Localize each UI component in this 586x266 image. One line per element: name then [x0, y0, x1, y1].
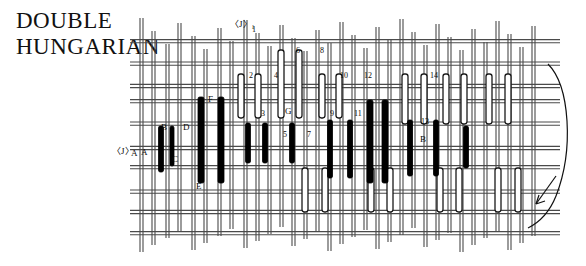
diagram-canvas: DOUBLE HUNGARIAN BDCFEGB1246835710129111… — [0, 0, 586, 266]
label-letter-f-3: F — [208, 95, 213, 103]
weave-bar-open — [495, 168, 501, 212]
label-letter-b-0: B — [161, 123, 167, 131]
label-number-5: 5 — [283, 131, 287, 139]
weave-bar-filled — [464, 126, 469, 168]
label-letter-g-5: G — [285, 107, 292, 115]
marker-j-top: 〈J〉₁ — [230, 20, 255, 28]
weave-bar-open — [238, 74, 244, 118]
label-letter-c-2: C — [172, 155, 178, 163]
weave-bar-filled — [382, 100, 388, 183]
label-letter-b-6: B — [420, 135, 426, 143]
weave-bar-filled — [198, 97, 204, 183]
weave-bar-filled — [434, 120, 439, 176]
label-number-10: 10 — [340, 72, 348, 80]
weave-bar-open — [456, 168, 462, 212]
label-number-7: 7 — [307, 131, 311, 139]
label-letter-a-left-1: A — [131, 149, 138, 157]
weave-bar-filled — [246, 123, 251, 163]
label-letter-e-4: E — [196, 182, 202, 190]
label-number-3: 3 — [261, 110, 265, 118]
label-number-8: 8 — [320, 47, 324, 55]
label-number-11: 11 — [354, 110, 362, 118]
weave-svg — [0, 0, 586, 266]
label-number-13: 13 — [421, 118, 429, 126]
weave-bar-filled — [218, 97, 224, 183]
label-number-6: 6 — [296, 47, 300, 55]
weave-bar-filled — [328, 120, 333, 178]
label-number-14: 14 — [430, 72, 438, 80]
weave-bar-open — [515, 168, 521, 212]
weave-bar-open — [486, 74, 492, 124]
weave-bar-filled — [408, 120, 413, 176]
weave-bar-open — [319, 74, 325, 118]
label-letter-d-1: D — [183, 123, 190, 131]
label-number-2: 2 — [249, 72, 253, 80]
weave-bar-open — [278, 50, 284, 118]
label-number-12: 12 — [364, 72, 372, 80]
label-number-4: 4 — [274, 72, 278, 80]
weave-diagram — [0, 0, 586, 266]
weave-bar-open — [461, 74, 467, 124]
weave-bar-filled — [348, 120, 353, 178]
weave-bar-open — [402, 74, 408, 124]
weave-bar-open — [336, 74, 342, 118]
weave-bar-filled — [290, 123, 295, 163]
weave-bar-filled — [367, 100, 373, 183]
label-number-9: 9 — [330, 110, 334, 118]
weave-bar-filled — [159, 126, 164, 172]
weave-bar-open — [296, 50, 302, 118]
weave-bar-open — [505, 74, 511, 124]
weave-bar-open — [443, 74, 449, 124]
weave-bar-open — [302, 168, 308, 212]
label-letter-a-left-2: A — [141, 148, 148, 156]
weave-bar-filled — [263, 123, 268, 163]
